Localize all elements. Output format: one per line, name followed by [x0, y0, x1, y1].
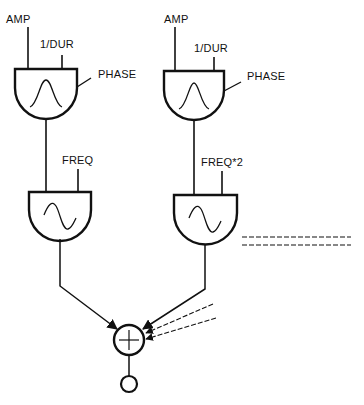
- sine-wave-icon: [189, 206, 221, 232]
- env2-phase-label: PHASE: [247, 70, 285, 82]
- adder: [114, 325, 144, 355]
- bell-curve-icon: [30, 80, 62, 107]
- osc1-to-adder-arrow: [60, 239, 117, 329]
- sine-wave-icon: [44, 203, 76, 229]
- env2-amp-label: AMP: [164, 13, 188, 25]
- additive-synthesis-diagram: AMP 1/DUR PHASE AMP 1/DUR PHASE FREQ FRE…: [0, 0, 364, 405]
- env1-phase-input-line: [77, 78, 91, 87]
- env1-phase-label: PHASE: [98, 68, 136, 80]
- bell-curve-icon: [179, 83, 209, 109]
- osc2-freq-label: FREQ*2: [201, 156, 243, 168]
- oscillator-2: FREQ*2: [174, 156, 243, 245]
- envelope-generator-2: AMP 1/DUR PHASE: [164, 13, 285, 120]
- continuation-dashed-lines: [242, 237, 351, 245]
- env1-body: [15, 69, 77, 119]
- env1-dur-label: 1/DUR: [40, 38, 74, 50]
- env1-amp-label: AMP: [6, 13, 30, 25]
- env2-dur-label: 1/DUR: [194, 42, 228, 54]
- output-circle: [121, 376, 137, 392]
- env2-body: [164, 71, 224, 120]
- osc1-freq-label: FREQ: [62, 154, 94, 166]
- oscillator-1: FREQ: [29, 154, 94, 241]
- osc2-to-adder-arrow: [143, 244, 205, 329]
- envelope-generator-1: AMP 1/DUR PHASE: [6, 13, 136, 119]
- env2-phase-input-line: [224, 82, 241, 91]
